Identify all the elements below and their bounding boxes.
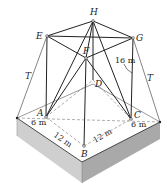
- dim-height: 16 m: [115, 56, 136, 65]
- label-T-left: T: [25, 71, 32, 81]
- anchor-right: [159, 121, 161, 123]
- label-F: F: [82, 46, 90, 56]
- block-left-face: [17, 118, 82, 183]
- dim-left-offset: 6 m: [31, 118, 47, 127]
- truss-diagram: H E G F D A C B T T 16 m 6 m 6 m 12 m 12…: [0, 0, 167, 192]
- anchor-left: [16, 117, 18, 119]
- label-E: E: [35, 31, 43, 41]
- dim-right-offset: 6 m: [131, 120, 147, 129]
- label-G: G: [136, 33, 143, 43]
- dim-BC: 12 m: [92, 127, 114, 145]
- dimension-arrow: [124, 64, 132, 73]
- label-C: C: [134, 110, 141, 120]
- label-T-right: T: [147, 73, 154, 83]
- block-right-face: [82, 122, 160, 183]
- label-D: D: [94, 79, 102, 89]
- label-H: H: [89, 7, 98, 17]
- label-B: B: [80, 149, 88, 159]
- label-A: A: [36, 108, 44, 118]
